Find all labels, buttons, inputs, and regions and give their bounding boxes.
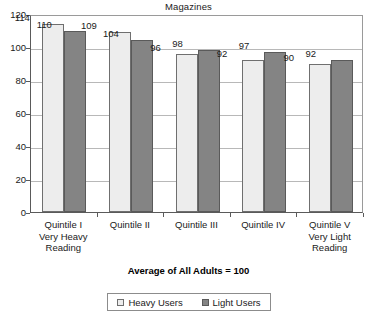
- bar-light-users: [131, 40, 153, 212]
- bar-light-users: [64, 31, 86, 213]
- x-axis-category-label: Quintile IV: [230, 219, 297, 231]
- x-axis-tick-mark: [97, 213, 98, 217]
- y-axis-tick-mark: [26, 81, 30, 82]
- legend-swatch-icon: [202, 299, 209, 306]
- y-axis-tick-mark: [26, 114, 30, 115]
- y-axis-tick-label: 100: [0, 43, 26, 53]
- chart-title: Magazines: [0, 1, 377, 12]
- y-axis-tick-label: 40: [0, 142, 26, 152]
- x-axis-category-line: Quintile III: [163, 219, 230, 231]
- chart-legend: Heavy UsersLight Users: [107, 293, 271, 311]
- magazines-bar-chart: Magazines 020406080100120 Average of All…: [0, 0, 377, 315]
- plot-area: [30, 15, 363, 213]
- bar-value-label: 98: [163, 39, 193, 49]
- x-axis-category-line: Very Heavy: [30, 231, 97, 243]
- x-axis-category-line: Quintile V: [296, 219, 363, 231]
- bar-heavy-users: [309, 64, 331, 213]
- bar-heavy-users: [242, 60, 264, 212]
- legend-item[interactable]: Light Users: [202, 297, 261, 308]
- y-axis-tick-mark: [26, 180, 30, 181]
- legend-swatch-icon: [117, 299, 124, 306]
- x-axis-tick-mark: [230, 213, 231, 217]
- bar-value-label: 97: [229, 41, 259, 51]
- x-axis-category-label: Quintile II: [97, 219, 164, 231]
- y-axis-tick-label: 0: [0, 208, 26, 218]
- y-axis-tick-mark: [26, 48, 30, 49]
- x-axis-category-line: Quintile I: [30, 219, 97, 231]
- x-axis-category-label: Quintile III: [163, 219, 230, 231]
- bar-heavy-users: [42, 24, 64, 212]
- legend-label: Light Users: [213, 297, 261, 308]
- bar-light-users: [331, 60, 353, 212]
- bar-heavy-users: [109, 32, 131, 212]
- y-axis-tick-label: 80: [0, 76, 26, 86]
- x-axis-category-line: Quintile IV: [230, 219, 297, 231]
- bar-light-users: [198, 50, 220, 212]
- x-axis-tick-mark: [296, 213, 297, 217]
- y-axis-tick-label: 20: [0, 175, 26, 185]
- x-axis-tick-mark: [363, 213, 364, 217]
- bar-value-label: 92: [296, 49, 326, 59]
- x-axis-category-label: Quintile VVery LightReading: [296, 219, 363, 254]
- bar-light-users: [264, 52, 286, 212]
- y-axis-tick-label: 60: [0, 109, 26, 119]
- chart-footnote: Average of All Adults = 100: [0, 265, 377, 276]
- bar-value-label: 104: [96, 29, 126, 39]
- legend-item[interactable]: Heavy Users: [117, 297, 182, 308]
- bar-heavy-users: [176, 54, 198, 212]
- x-axis-tick-mark: [163, 213, 164, 217]
- y-axis-tick-mark: [26, 213, 30, 214]
- x-axis-category-label: Quintile IVery HeavyReading: [30, 219, 97, 254]
- x-axis-category-line: Reading: [30, 242, 97, 254]
- x-axis-category-line: Very Light: [296, 231, 363, 243]
- legend-label: Heavy Users: [128, 297, 182, 308]
- y-axis-tick-mark: [26, 147, 30, 148]
- x-axis-category-line: Quintile II: [97, 219, 164, 231]
- bar-value-label: 110: [29, 20, 59, 30]
- x-axis-category-line: Reading: [296, 242, 363, 254]
